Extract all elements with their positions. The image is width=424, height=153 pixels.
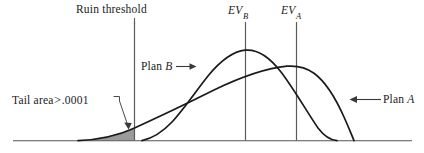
tail-area-operator: > (54, 93, 62, 107)
ev-a-label: EVA (281, 5, 301, 19)
plan-a-label-text: Plan (383, 93, 404, 105)
ev-a-label-subscript: A (296, 11, 301, 21)
tail-area-leader (114, 97, 128, 125)
tail-area-label: Tail area>.0001 (12, 94, 89, 107)
ev-b-label: EVB (228, 5, 248, 19)
plan-b-arrowhead (190, 63, 197, 70)
ev-b-label-text: EV (228, 4, 242, 16)
figure-canvas (0, 0, 424, 153)
ev-b-label-subscript: B (243, 11, 248, 21)
plan-a-curve (78, 66, 354, 141)
ruin-threshold-label: Ruin threshold (76, 4, 147, 16)
distribution-figure: Ruin threshold Tail area>.0001 Plan B Pl… (0, 0, 424, 153)
plan-b-label: Plan B (141, 61, 173, 73)
tail-area-arrowhead (124, 122, 132, 129)
ev-a-label-text: EV (281, 4, 295, 16)
plan-a-arrowhead (350, 96, 358, 103)
tail-area-text: Tail area (12, 94, 54, 106)
plan-b-label-letter: B (165, 60, 172, 72)
tail-area-shading (78, 128, 134, 140)
tail-area-value: .0001 (62, 94, 89, 106)
plan-a-label-letter: A (407, 93, 414, 105)
plan-a-label: Plan A (383, 94, 415, 106)
plan-b-label-text: Plan (141, 60, 162, 72)
